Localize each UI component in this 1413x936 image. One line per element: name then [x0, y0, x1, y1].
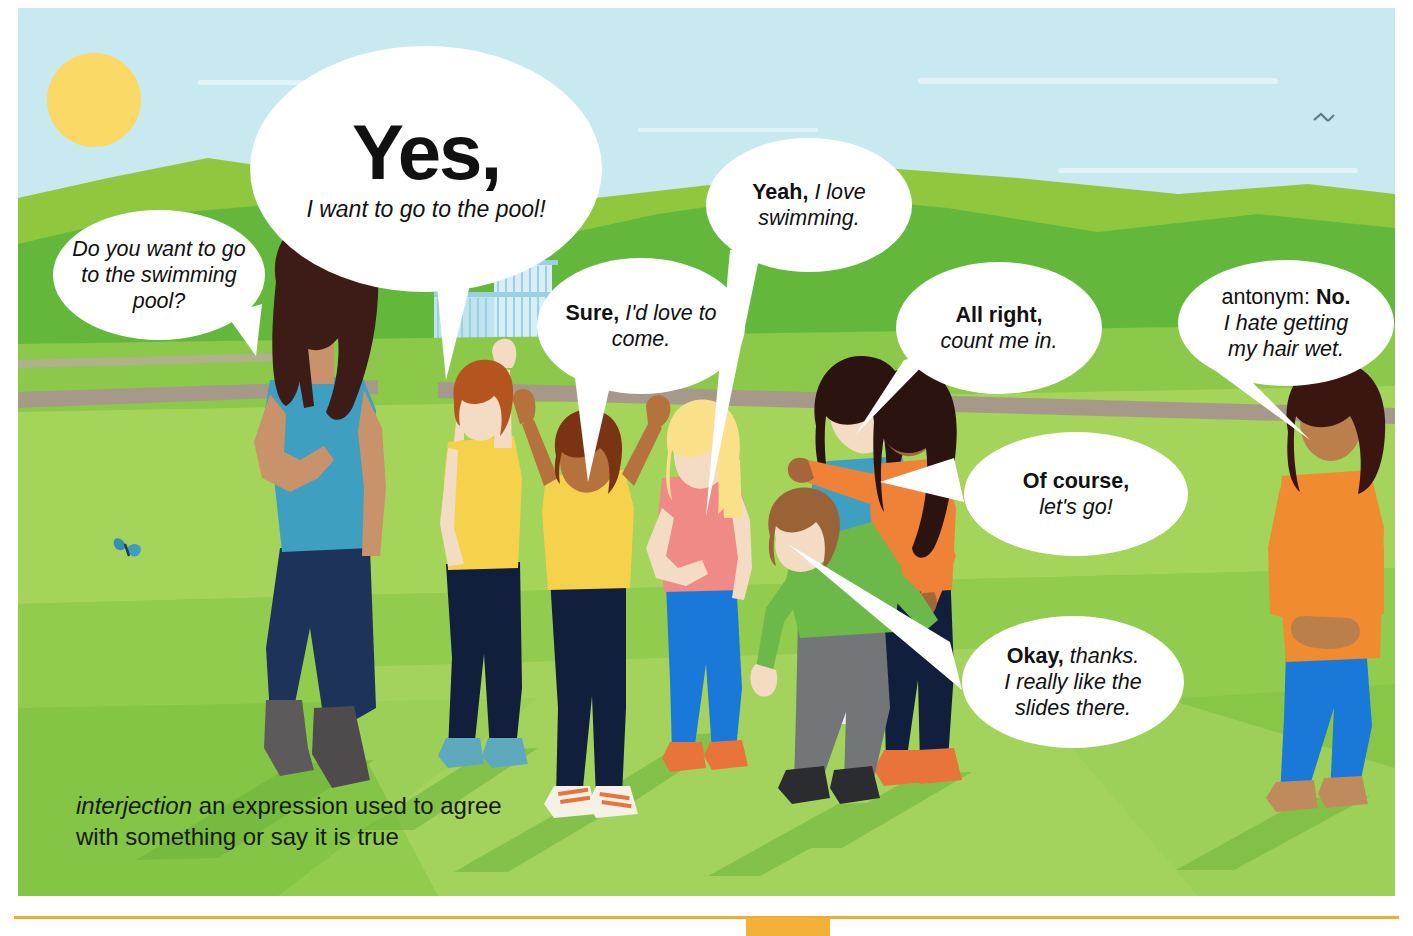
woman3-foot-right — [1318, 776, 1368, 808]
yeah-bubble[interactable]: Yeah, I love swimming. — [706, 138, 912, 272]
definition-block: interjection an expression used to agree… — [76, 791, 506, 852]
all-right-bold-text: All right, — [955, 303, 1042, 327]
all-right-bubble[interactable]: All right, count me in. — [896, 262, 1102, 394]
antonym-bubble[interactable]: antonym: No. I hate getting my hair wet. — [1178, 260, 1394, 386]
okay-italic-line-2: I really like the — [1004, 670, 1141, 694]
headword-text: Yes, — [262, 115, 590, 189]
of-course-italic-text: let's go! — [1039, 495, 1112, 519]
sure-bubble[interactable]: Sure, I'd love to come. — [537, 258, 745, 394]
page-rule — [14, 916, 1399, 919]
all-right-italic-text: count me in. — [940, 329, 1057, 353]
dictionary-page: Do you want to go to the swimming pool? … — [0, 0, 1413, 936]
okay-bubble[interactable]: Okay, thanks. I really like the slides t… — [962, 616, 1184, 748]
question-bubble[interactable]: Do you want to go to the swimming pool? — [53, 210, 265, 340]
woman-left-leg — [266, 548, 376, 724]
of-course-bubble[interactable]: Of course, let's go! — [964, 432, 1188, 556]
scene-artwork — [18, 8, 1395, 896]
antonym-label: antonym: — [1221, 285, 1309, 309]
headword-example-text: I want to go to the pool! — [262, 195, 590, 223]
illustration-scene: Do you want to go to the swimming pool? … — [18, 8, 1395, 896]
sun-icon — [47, 53, 141, 147]
boy1-shoe-left — [438, 738, 484, 768]
antonym-italic-line-2: my hair wet. — [1228, 337, 1344, 361]
boy1-shoe-right — [482, 738, 528, 768]
okay-italic-line-1: thanks. — [1070, 644, 1139, 668]
okay-italic-line-3: slides there. — [1015, 696, 1131, 720]
antonym-bold-text: No. — [1316, 285, 1351, 309]
of-course-bold-text: Of course, — [1023, 469, 1129, 493]
antonym-italic-line-1: I hate getting — [1224, 311, 1348, 335]
part-of-speech-label: interjection — [76, 792, 192, 819]
question-bubble-text: Do you want to go to the swimming pool? — [72, 237, 245, 313]
sure-bold-text: Sure, — [565, 301, 619, 325]
headword-bubble[interactable]: Yes, I want to go to the pool! — [250, 46, 602, 292]
girl1-shoe-left — [662, 742, 706, 772]
page-tab — [746, 918, 830, 936]
sure-italic-text: I'd love to come. — [612, 301, 717, 351]
girl2-shoe-right — [912, 748, 962, 784]
okay-bold-text: Okay, — [1007, 644, 1064, 668]
boy3-shoe-right — [830, 766, 880, 804]
girl1-shoe-right — [704, 740, 748, 770]
yeah-bold-text: Yeah, — [752, 180, 808, 204]
